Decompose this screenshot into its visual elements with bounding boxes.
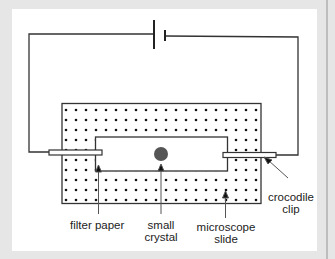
label-text: crystal	[141, 231, 181, 243]
label-small-crystal: small crystal	[141, 219, 181, 243]
label-filter-paper: filter paper	[70, 219, 124, 231]
label-text: microscope	[194, 221, 258, 233]
label-text: slide	[194, 233, 258, 245]
label-text: filter paper	[70, 219, 124, 231]
right-crocodile-clip	[223, 153, 276, 158]
label-crocodile-clip: crocodile clip	[265, 191, 317, 215]
label-text: clip	[265, 203, 317, 215]
crystal-icon	[154, 147, 168, 161]
battery-icon	[154, 20, 165, 49]
left-crocodile-clip	[49, 150, 102, 155]
label-text: crocodile	[265, 191, 317, 203]
label-microscope-slide: microscope slide	[194, 221, 258, 245]
label-text: small	[141, 219, 181, 231]
